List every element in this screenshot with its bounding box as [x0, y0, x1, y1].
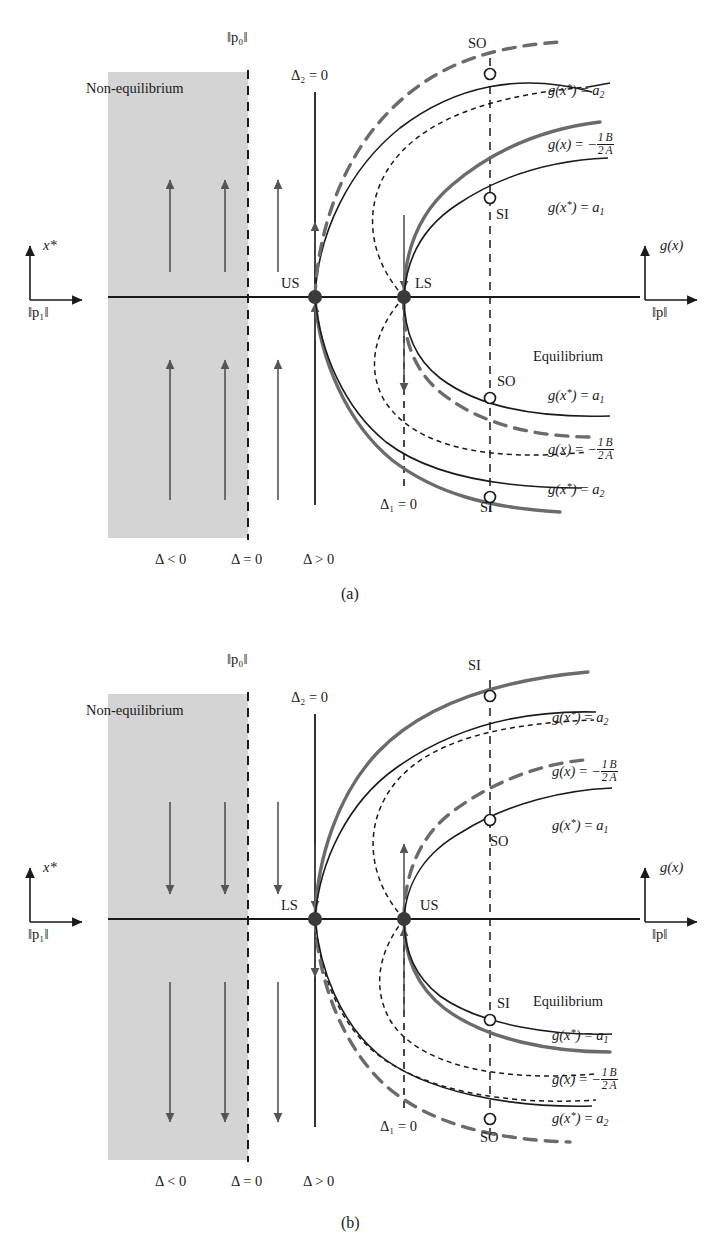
so-label-b-lower: SO [480, 1130, 499, 1145]
panel-a: ‖p₀‖ Non-equilibrium Δ₂ = 0 x* ‖p₁‖ g(x)… [0, 0, 708, 622]
so-label-a-upper: SO [468, 36, 487, 51]
delta-lt0-label-b: Δ < 0 [155, 1174, 186, 1189]
curve-label-a1-upper-b: g(x*) = a1 [552, 818, 608, 835]
right-axis-frame [645, 246, 697, 300]
marker-so-lower [485, 1114, 496, 1125]
caption-a: (a) [341, 585, 359, 603]
delta-lt0-label-a: Δ < 0 [155, 552, 186, 567]
p0-label-b: ‖p₀‖ [227, 652, 247, 667]
figure-page: ‖p₀‖ Non-equilibrium Δ₂ = 0 x* ‖p₁‖ g(x)… [0, 0, 708, 1244]
curve-a2-lower [315, 919, 592, 1106]
xstar-axis-label-b: x* [43, 860, 57, 875]
delta1-label-b: Δ₁ = 0 [380, 1119, 417, 1134]
marker-so-upper [485, 815, 496, 826]
curve-label-bA-upper-b: g(x) = −12BA [552, 759, 618, 784]
delta-gt0-label-b: Δ > 0 [303, 1174, 334, 1189]
curve-label-a1-upper-a: g(x*) = a1 [548, 200, 604, 217]
so-label-b-upper: SO [490, 834, 509, 849]
curve-label-bA-lower-a: g(x) = −12BA [548, 437, 614, 462]
curve-label-bA-upper-a: g(x) = −12BA [548, 132, 614, 157]
curve-a1-upper [404, 158, 608, 297]
fixed-point-us [308, 290, 322, 304]
curve-label-a2-lower-b: g(x*) = a2 [552, 1111, 608, 1128]
marker-so-lower [485, 393, 496, 404]
caption-b: (b) [341, 1214, 360, 1232]
ls-label-a: LS [415, 276, 432, 291]
curve-a1-lower [404, 919, 612, 1034]
delta1-label-a: Δ₁ = 0 [380, 497, 417, 512]
curve-label-a2-upper-a: g(x*) = a2 [548, 83, 604, 100]
delta2-label-a: Δ₂ = 0 [291, 68, 328, 83]
so-label-a-lower: SO [497, 374, 516, 389]
si-label-b-upper: SI [468, 658, 481, 673]
fixed-point-ls [397, 290, 411, 304]
curve-a2-upper [315, 83, 592, 297]
p1-axis-label-a: ‖p₁‖ [28, 305, 48, 320]
right-axis-frame [645, 868, 697, 922]
non-equilibrium-shading [108, 72, 248, 538]
non-equilibrium-label-a: Non-equilibrium [86, 81, 183, 96]
delta-gt0-label-a: Δ > 0 [303, 552, 334, 567]
equilibrium-label-b: Equilibrium [533, 994, 603, 1009]
curve-label-a2-lower-a: g(x*) = a2 [548, 482, 604, 499]
gx-axis-label-a: g(x) [660, 238, 683, 253]
curve-so-upper [315, 42, 560, 297]
left-axis-frame [30, 246, 82, 300]
panel-b: ‖p₀‖ Non-equilibrium Δ₂ = 0 x* ‖p₁‖ g(x)… [0, 622, 708, 1244]
delta-eq0-label-b: Δ = 0 [231, 1174, 262, 1189]
si-label-b-lower: SI [497, 996, 510, 1011]
p-axis-label-b: ‖p‖ [652, 927, 667, 942]
si-label-a-upper: SI [496, 207, 509, 222]
curve-label-a2-upper-b: g(x*) = a2 [552, 710, 608, 727]
p-axis-label-a: ‖p‖ [652, 305, 667, 320]
gx-axis-label-b: g(x) [660, 860, 683, 875]
delta-eq0-label-a: Δ = 0 [231, 552, 262, 567]
marker-si-upper [485, 691, 496, 702]
left-axis-frame [30, 868, 82, 922]
curve-si-upper [315, 672, 588, 919]
si-label-a-lower: SI [480, 500, 493, 515]
fixed-point-ls [308, 912, 322, 926]
xstar-axis-label-a: x* [43, 238, 57, 253]
p0-label-a: ‖p₀‖ [227, 30, 247, 45]
ls-label-b: LS [281, 898, 298, 913]
curve-label-a1-lower-a: g(x*) = a1 [548, 388, 604, 405]
us-label-b: US [420, 898, 439, 913]
fixed-point-us [397, 912, 411, 926]
curve-label-bA-lower-b: g(x) = −12BA [552, 1067, 618, 1092]
marker-so-upper [485, 69, 496, 80]
marker-si-upper [485, 193, 496, 204]
equilibrium-label-a: Equilibrium [533, 349, 603, 364]
curve-a2-lower [315, 297, 582, 488]
curve-label-a1-lower-b: g(x*) = a1 [552, 1028, 608, 1045]
marker-si-lower [485, 1015, 496, 1026]
us-label-a: US [281, 276, 300, 291]
curve-a2-upper [315, 712, 596, 919]
non-equilibrium-label-b: Non-equilibrium [86, 703, 183, 718]
delta2-label-b: Δ₂ = 0 [291, 690, 328, 705]
p1-axis-label-b: ‖p₁‖ [28, 927, 48, 942]
non-equilibrium-shading [108, 694, 248, 1160]
